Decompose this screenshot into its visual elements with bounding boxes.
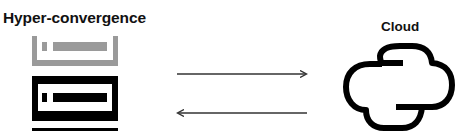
cloud-icon (346, 46, 452, 128)
gray-server-tray-icon (32, 36, 118, 66)
server-stack-icon (32, 36, 118, 131)
base-line-icon (32, 128, 118, 131)
diagram-canvas (0, 0, 464, 140)
black-server-unit-icon (32, 76, 118, 121)
